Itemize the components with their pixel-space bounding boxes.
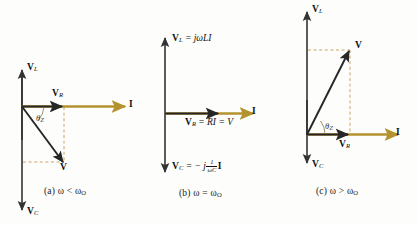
panel-b-label-i: I	[252, 106, 256, 116]
panel-a-label-i: I	[129, 99, 133, 109]
panel-c-label-v: V	[355, 40, 362, 50]
phasor-diagram-figure: VL VC I VR V θZ (a) ω < ωO VL = jωLI I V…	[0, 0, 417, 225]
panel-a-label-vr: VR	[52, 88, 63, 98]
panel-b-label-vr-equation: VR = RI = V	[185, 117, 233, 127]
panel-b-fraction: 1ωC	[206, 159, 217, 173]
panel-b-caption: (b) ω = ωO	[179, 188, 222, 198]
panel-a-label-v: V	[60, 162, 67, 172]
panel-a-label-vl: VL	[27, 62, 38, 72]
panel-c-label-vl: VL	[312, 4, 323, 14]
panel-a-label-vc: VC	[27, 206, 38, 216]
panel-c-label-vr: VR	[339, 139, 350, 149]
panel-c-label-vc: VC	[312, 159, 323, 169]
panel-c-caption: (c) ω > ωO	[316, 186, 358, 196]
panel-c-angle-label: θZ	[325, 121, 333, 131]
panel-a-caption: (a) ω < ωO	[44, 186, 86, 196]
panel-a-angle-label: θZ	[36, 113, 44, 123]
panel-b-label-vc-equation: VC = − j1ωCI	[172, 159, 221, 173]
panel-c-label-i: I	[396, 127, 400, 137]
panel-b-label-vl-equation: VL = jωLI	[172, 33, 212, 43]
